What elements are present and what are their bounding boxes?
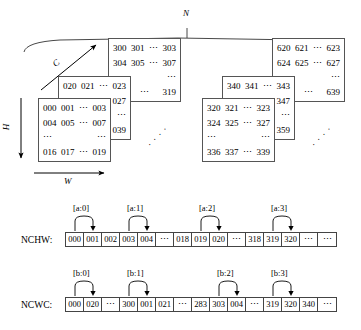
cell-value: 325 [225,118,239,128]
cell-value: 621 [295,43,309,53]
cell-value: 023 [113,81,127,91]
cell-value: 303 [163,43,177,53]
cell-value: 020 [63,81,77,91]
memory-layout-rows: NCHW: 000001002003004⋯018019020⋯31831932… [0,198,361,330]
cell-value: 021 [81,81,95,91]
cell-ellipsis: ⋯ [331,72,340,82]
axis-arrow-h [15,96,29,166]
group-continuation-dots-left: · · · · [145,124,170,149]
axis-arrow-w [32,168,114,180]
cell-value: 304 [113,58,127,68]
cell-value: 359 [277,125,291,135]
cell-ellipsis: ⋯ [97,132,106,142]
cell-value: 305 [131,58,145,68]
cell-ellipsis: ⋯ [79,118,88,128]
cell-value: 625 [295,58,309,68]
cell-value: 307 [163,58,177,68]
cell-value: 001 [61,103,75,113]
cell-value: 620 [277,43,291,53]
cell-ellipsis: ⋯ [304,87,313,97]
cell-value: 027 [113,96,127,106]
tensor-diagram: N C H W 300301⋯303 304305⋯307 ⋯⋯ 317⋯319 [0,0,361,198]
hook-arrow-label: [b:3] [271,268,288,278]
cell-value: 039 [113,125,127,135]
cell-value: 321 [225,103,239,113]
cell-value: 000 [43,103,57,113]
axis-label-h: H [1,124,11,131]
cell-ellipsis: ⋯ [140,87,149,97]
axis-label-w: W [64,176,72,186]
cell-value: 336 [207,147,221,157]
cell-ellipsis: ⋯ [99,81,108,91]
cell-ellipsis: ⋯ [313,58,322,68]
cell-value: 320 [207,103,221,113]
cell-value: 347 [277,96,291,106]
plane-n0-c0: 000001⋯003 004005⋯007 ⋯⋯ 016017⋯019 [38,98,111,162]
cell-ellipsis: ⋯ [117,110,126,120]
cell-ellipsis: ⋯ [79,147,88,157]
cell-value: 301 [131,43,145,53]
cell-value: 319 [163,87,177,97]
cell-value: 004 [43,118,57,128]
cell-ellipsis: ⋯ [243,147,252,157]
cell-value: 343 [277,81,291,91]
cell-value: 327 [257,118,271,128]
cell-ellipsis: ⋯ [263,81,272,91]
cell-value: 339 [257,147,271,157]
cell-ellipsis: ⋯ [79,103,88,113]
cell-ellipsis: ⋯ [149,43,158,53]
cell-ellipsis: ⋯ [281,110,290,120]
plane-nN-c0: 320321⋯323 324325⋯327 ⋯⋯ 336337⋯339 [202,98,275,162]
cell-value: 324 [207,118,221,128]
cell-value: 017 [61,147,75,157]
cell-ellipsis: ⋯ [243,103,252,113]
cell-value: 003 [93,103,107,113]
cell-ellipsis: ⋯ [313,43,322,53]
cell-ellipsis: ⋯ [261,132,270,142]
cell-value: 300 [113,43,127,53]
cell-value: 627 [327,58,341,68]
cell-ellipsis: ⋯ [149,58,158,68]
cell-value: 340 [227,81,241,91]
cell-value: 623 [327,43,341,53]
cell-value: 007 [93,118,107,128]
cell-value: 019 [93,147,107,157]
cell-value: 016 [43,147,57,157]
cell-value: 323 [257,103,271,113]
axis-label-n: N [183,8,189,18]
cell-value: 639 [327,87,341,97]
cell-ellipsis: ⋯ [167,72,176,82]
hook-arrow [0,198,361,330]
cell-ellipsis: ⋯ [43,132,52,142]
group-continuation-dots-right: · · · · [309,124,334,149]
cell-value: 337 [225,147,239,157]
cell-value: 005 [61,118,75,128]
cell-value: 624 [277,58,291,68]
cell-ellipsis: ⋯ [243,118,252,128]
cell-value: 341 [245,81,259,91]
cell-ellipsis: ⋯ [207,132,216,142]
